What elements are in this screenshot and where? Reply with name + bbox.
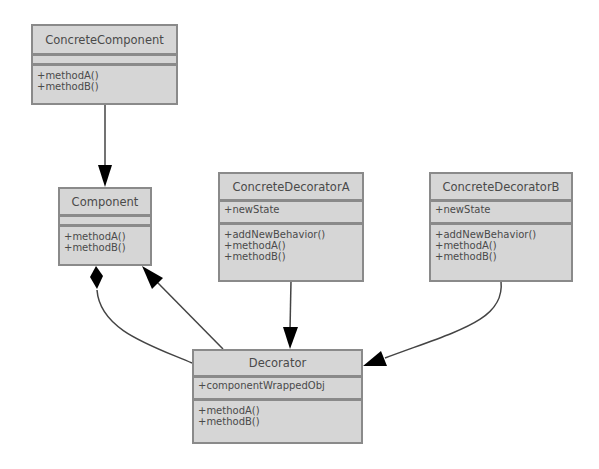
method-row: +methodB() [198, 416, 357, 427]
class-name: ConcreteDecoratorB [431, 174, 571, 202]
class-name: Decorator [194, 351, 361, 378]
arrowhead-icon [98, 165, 112, 187]
method-row: +methodB() [224, 251, 358, 262]
method-row: +methodA() [64, 231, 146, 242]
class-attributes [33, 56, 176, 66]
class-methods: +methodA() +methodB() [194, 401, 361, 431]
class-concrete-decorator-a[interactable]: ConcreteDecoratorA +newState +addNewBeha… [218, 172, 364, 282]
edge-concretecomponent-to-component [98, 104, 112, 187]
arrowhead-icon [283, 327, 298, 349]
class-methods: +addNewBehavior() +methodA() +methodB() [220, 225, 362, 266]
class-name: ConcreteDecoratorA [220, 174, 362, 202]
class-attributes: +newState [220, 202, 362, 225]
edge-decorator-to-component [142, 266, 223, 349]
arrowhead-icon [142, 266, 163, 289]
method-row: +addNewBehavior() [224, 229, 358, 240]
edge-concretedecoratorb-to-decorator [363, 281, 501, 366]
method-row: +methodA() [37, 70, 172, 81]
class-attributes: +componentWrappedObj [194, 378, 361, 401]
class-decorator[interactable]: Decorator +componentWrappedObj +methodA(… [192, 349, 363, 444]
method-row: +methodB() [435, 251, 567, 262]
class-methods: +methodA() +methodB() [60, 227, 150, 257]
class-methods: +addNewBehavior() +methodA() +methodB() [431, 225, 571, 266]
class-component[interactable]: Component +methodA() +methodB() [58, 187, 152, 266]
attribute-row: +newState [435, 204, 567, 216]
arrowhead-icon [363, 351, 387, 366]
composition-diamond-icon [90, 266, 103, 289]
method-row: +methodA() [435, 240, 567, 251]
attribute-row: +newState [224, 204, 358, 216]
class-methods: +methodA() +methodB() [33, 66, 176, 96]
edge-decorator-composition-component [90, 266, 192, 363]
class-concrete-decorator-b[interactable]: ConcreteDecoratorB +newState +addNewBeha… [429, 172, 573, 282]
method-row: +methodA() [198, 405, 357, 416]
class-attributes [60, 217, 150, 227]
method-row: +methodB() [64, 242, 146, 253]
class-concrete-component[interactable]: ConcreteComponent +methodA() +methodB() [31, 24, 178, 105]
class-name: ConcreteComponent [33, 26, 176, 56]
class-attributes: +newState [431, 202, 571, 225]
method-row: +methodA() [224, 240, 358, 251]
attribute-row: +componentWrappedObj [198, 380, 357, 392]
edge-concretedecoratora-to-decorator [283, 281, 298, 349]
method-row: +methodB() [37, 81, 172, 92]
method-row: +addNewBehavior() [435, 229, 567, 240]
class-name: Component [60, 189, 150, 217]
